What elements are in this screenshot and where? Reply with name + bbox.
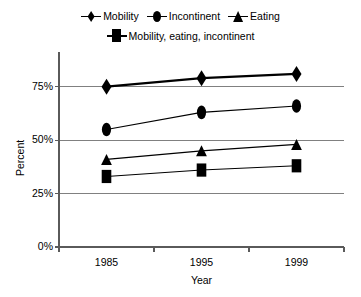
plot-svg [0, 0, 361, 297]
y-tick-label: 50% [7, 133, 53, 145]
y-tick-label: 75% [7, 80, 53, 92]
x-axis-title: Year [59, 274, 344, 286]
data-point [102, 79, 112, 95]
y-tick-label: 0% [7, 240, 53, 252]
data-point [102, 170, 112, 183]
data-point [197, 70, 207, 86]
data-point [292, 159, 302, 172]
x-tick-label: 1999 [249, 256, 344, 268]
data-point [292, 99, 301, 113]
x-tick-label: 1995 [154, 256, 249, 268]
data-point [197, 106, 206, 120]
plot-area: Percent Year 75%50%25%0%198519951999 [0, 0, 361, 297]
data-point [102, 123, 111, 137]
x-tick-label: 1985 [59, 256, 154, 268]
chart-figure: Mobility Incontinent Eating Mobility, ea… [0, 0, 361, 297]
data-point [292, 66, 302, 82]
data-point [197, 163, 207, 176]
y-tick-label: 25% [7, 187, 53, 199]
